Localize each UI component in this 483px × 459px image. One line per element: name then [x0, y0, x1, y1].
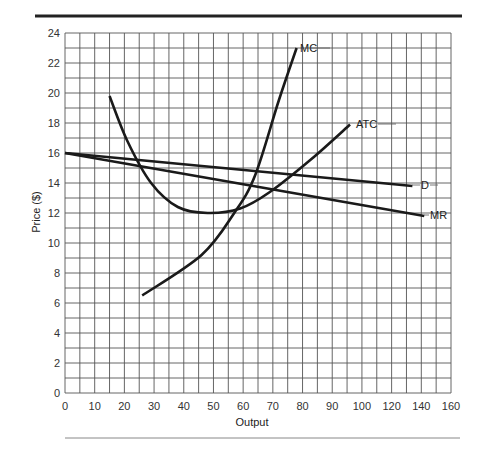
y-tick-label: 22: [48, 57, 60, 69]
x-tick-label: 20: [118, 400, 130, 412]
x-axis-ticks: 0102030405060708090100120140160: [62, 400, 460, 412]
curve-label-atc: ATC: [356, 118, 396, 130]
y-tick-label: 16: [48, 147, 60, 159]
economics-cost-curve-chart: 024681012141618202224 010203040506070809…: [0, 0, 483, 459]
svg-text:ATC: ATC: [356, 118, 377, 130]
x-tick-label: 10: [89, 400, 101, 412]
curve-label-mr: MR: [424, 209, 447, 221]
x-tick-label: 140: [412, 400, 430, 412]
x-tick-label: 90: [326, 400, 338, 412]
x-tick-label: 30: [148, 400, 160, 412]
svg-text:MC: MC: [300, 42, 317, 54]
y-tick-label: 4: [54, 327, 60, 339]
y-tick-label: 0: [54, 387, 60, 399]
y-tick-label: 2: [54, 357, 60, 369]
y-tick-label: 12: [48, 207, 60, 219]
y-tick-label: 10: [48, 237, 60, 249]
y-tick-label: 8: [54, 267, 60, 279]
curve-label-d: D: [412, 179, 438, 191]
curve-d: [65, 153, 412, 186]
y-tick-label: 18: [48, 117, 60, 129]
x-tick-label: 100: [353, 400, 371, 412]
y-tick-label: 24: [48, 27, 60, 39]
y-tick-label: 14: [48, 177, 60, 189]
x-tick-label: 120: [382, 400, 400, 412]
grid: [65, 33, 451, 393]
curve-label-mc: MC: [300, 42, 330, 54]
x-axis-label: Output: [235, 416, 268, 428]
x-tick-label: 50: [207, 400, 219, 412]
y-tick-label: 20: [48, 87, 60, 99]
x-tick-label: 70: [267, 400, 279, 412]
x-tick-label: 60: [237, 400, 249, 412]
y-axis-ticks: 024681012141618202224: [48, 27, 60, 399]
x-tick-label: 0: [62, 400, 68, 412]
svg-text:MR: MR: [430, 209, 447, 221]
y-tick-label: 6: [54, 297, 60, 309]
x-tick-label: 160: [442, 400, 460, 412]
x-tick-label: 80: [296, 400, 308, 412]
x-tick-label: 40: [178, 400, 190, 412]
svg-text:D: D: [421, 179, 429, 191]
y-axis-label: Price ($): [30, 191, 42, 233]
